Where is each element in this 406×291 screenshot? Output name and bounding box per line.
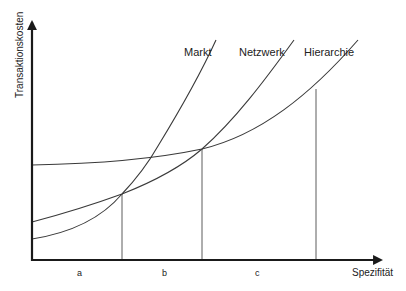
region-label-b: b [162,268,167,278]
label-markt: Markt [184,46,212,58]
y-axis-label: Transaktionskosten [14,12,25,98]
region-label-a: a [77,268,82,278]
curve-markt [32,40,216,239]
label-netzwerk: Netzwerk [239,46,285,58]
x-axis-label: Spezifität [352,267,393,278]
curve-netzwerk [32,40,294,222]
label-hierarchie: Hierarchie [304,46,354,58]
transaction-cost-diagram: Markt Netzwerk Hierarchie a b c Spezifit… [0,0,406,291]
curve-hierarchie [32,40,358,165]
region-label-c: c [255,268,260,278]
